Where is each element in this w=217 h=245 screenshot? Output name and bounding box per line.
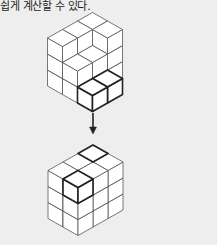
cube-diagram [0, 0, 217, 245]
after-cube-figure [48, 145, 123, 236]
before-cube-figure [48, 13, 123, 112]
down-arrow-icon [90, 113, 97, 134]
